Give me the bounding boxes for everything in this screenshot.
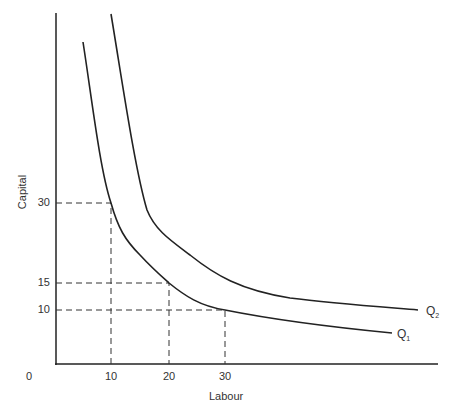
ref-line-30-10	[56, 310, 225, 364]
ref-line-20-15	[56, 283, 169, 364]
x-tick-30: 30	[213, 370, 237, 382]
q2-label-main: Q	[426, 304, 435, 318]
y-tick-30: 30	[30, 196, 50, 208]
x-axis-label: Labour	[209, 390, 243, 402]
q1-label-sub: 1	[406, 335, 410, 342]
ref-line-10-30	[56, 203, 111, 364]
isoquant-q2	[111, 14, 418, 310]
isoquant-q1	[83, 42, 392, 333]
q2-label: Q2	[426, 304, 439, 319]
origin-label: 0	[26, 370, 32, 382]
x-tick-20: 20	[157, 370, 181, 382]
y-tick-10: 10	[30, 303, 50, 315]
q1-label-main: Q	[397, 327, 406, 341]
q2-label-sub: 2	[435, 312, 439, 319]
y-tick-15: 15	[30, 276, 50, 288]
y-axis-label: Capital	[16, 172, 28, 212]
x-tick-10: 10	[99, 370, 123, 382]
q1-label: Q1	[397, 327, 410, 342]
isoquant-chart	[0, 0, 449, 409]
